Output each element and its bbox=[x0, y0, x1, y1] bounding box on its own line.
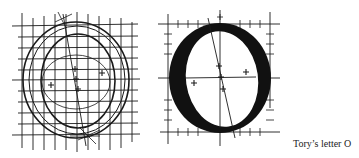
finished-figure bbox=[158, 10, 280, 146]
construction-figure bbox=[12, 12, 140, 152]
counter-ellipse bbox=[41, 34, 115, 128]
figure-caption: Tory’s letter O bbox=[293, 138, 351, 149]
letter-o-diagram bbox=[0, 0, 359, 158]
